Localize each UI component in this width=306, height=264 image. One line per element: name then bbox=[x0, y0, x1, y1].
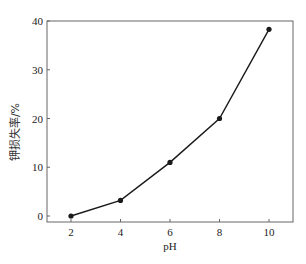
x-tick-label: 4 bbox=[118, 226, 124, 238]
data-point bbox=[266, 27, 271, 32]
y-tick-label: 20 bbox=[32, 113, 44, 125]
series-line bbox=[71, 29, 269, 216]
data-point bbox=[217, 116, 222, 121]
data-point bbox=[167, 160, 172, 165]
x-tick-label: 6 bbox=[167, 226, 173, 238]
y-tick-label: 40 bbox=[32, 15, 44, 27]
data-point bbox=[68, 213, 73, 218]
x-tick-label: 2 bbox=[68, 226, 74, 238]
y-tick-label: 10 bbox=[32, 161, 44, 173]
x-tick-label: 10 bbox=[264, 226, 276, 238]
x-tick-label: 8 bbox=[217, 226, 223, 238]
data-point bbox=[118, 198, 123, 203]
line-chart: 246810 010203040 pH bbox=[0, 0, 306, 264]
data-markers bbox=[68, 27, 271, 219]
x-axis-label: pH bbox=[163, 240, 177, 252]
y-tick-label: 30 bbox=[32, 64, 44, 76]
y-tick-label: 0 bbox=[38, 210, 44, 222]
